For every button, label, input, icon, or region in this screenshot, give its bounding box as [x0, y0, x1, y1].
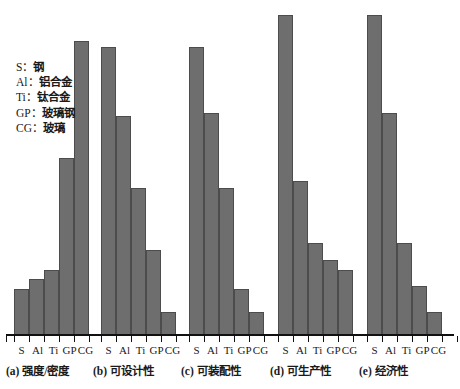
- panel-caption-e: (e) 经济性: [359, 362, 408, 378]
- tick-mark: [59, 336, 60, 342]
- bar-b-al: [116, 116, 131, 335]
- tick-labels-a: SAlTiGPCG: [14, 344, 94, 356]
- tick-mark: [29, 336, 30, 342]
- bar-c-s: [189, 47, 204, 335]
- bar-d-al: [293, 181, 308, 335]
- tick-mark: [131, 336, 132, 342]
- tick-label-c-ti: Ti: [221, 344, 237, 356]
- tick-label-c-al: Al: [205, 344, 221, 356]
- tick-labels-e: SAlTiGPCG: [367, 344, 447, 356]
- tick-mark: [6, 336, 7, 342]
- legend-entry-cg: CG：玻璃: [16, 121, 75, 136]
- tick-labels-b: SAlTiGPCG: [101, 344, 181, 356]
- tick-mark: [338, 336, 339, 342]
- legend-entry-separator: ：: [26, 91, 37, 103]
- legend-entry-key: Al: [16, 76, 28, 88]
- tick-label-c-gp: GP: [237, 344, 253, 356]
- tick-label-b-cg: CG: [165, 344, 181, 356]
- tick-mark: [323, 336, 324, 342]
- tick-label-e-gp: GP: [415, 344, 431, 356]
- bar-a-gp: [59, 158, 74, 335]
- tick-label-e-ti: Ti: [399, 344, 415, 356]
- bar-group-b: [101, 0, 176, 335]
- bar-c-gp: [234, 289, 249, 335]
- legend-entry-label: 玻璃: [43, 122, 65, 134]
- bar-d-ti: [308, 243, 323, 335]
- legend-entry-separator: ：: [32, 122, 43, 134]
- bar-e-cg: [427, 312, 442, 335]
- bar-b-gp: [146, 250, 161, 335]
- tick-label-b-gp: GP: [149, 344, 165, 356]
- tick-label-e-cg: CG: [431, 344, 447, 356]
- tick-mark: [427, 336, 428, 342]
- tick-label-d-al: Al: [294, 344, 310, 356]
- bar-d-s: [278, 15, 293, 335]
- tick-mark: [74, 336, 75, 342]
- legend-entry-gp: GP：玻璃钢: [16, 106, 75, 121]
- bar-a-s: [14, 289, 29, 335]
- tick-mark: [293, 336, 294, 342]
- bar-group-c: [189, 0, 264, 335]
- bar-a-ti: [44, 270, 59, 335]
- tick-mark: [382, 336, 383, 342]
- tick-mark: [397, 336, 398, 342]
- tick-mark: [278, 336, 279, 342]
- tick-mark: [101, 336, 102, 342]
- bar-e-gp: [412, 286, 427, 335]
- legend-entry-separator: ：: [28, 76, 39, 88]
- legend-entry-separator: ：: [22, 61, 33, 73]
- panel-caption-d: (d) 可生产性: [270, 362, 331, 378]
- tick-label-d-s: S: [278, 344, 294, 356]
- tick-label-a-al: Al: [30, 344, 46, 356]
- tick-label-e-s: S: [367, 344, 383, 356]
- tick-label-a-gp: GP: [62, 344, 78, 356]
- tick-mark: [234, 336, 235, 342]
- bar-group-e: [367, 0, 442, 335]
- tick-label-a-cg: CG: [78, 344, 94, 356]
- legend-entry-separator: ：: [31, 107, 42, 119]
- tick-label-b-s: S: [101, 344, 117, 356]
- bar-b-s: [101, 47, 116, 335]
- bar-e-s: [367, 15, 382, 335]
- plot-area: [0, 0, 460, 335]
- panel-caption-a: (a) 强度/密度: [6, 362, 69, 378]
- tick-mark: [161, 336, 162, 342]
- tick-label-c-cg: CG: [253, 344, 269, 356]
- bar-b-ti: [131, 188, 146, 335]
- bar-group-d: [278, 0, 353, 335]
- legend-entry-key: Ti: [16, 91, 26, 103]
- legend: S：钢Al：铝合金Ti：钛合金GP：玻璃钢CG：玻璃: [16, 60, 75, 136]
- tick-mark: [89, 336, 90, 342]
- panel-caption-c: (c) 可装配性: [181, 362, 241, 378]
- panel-caption-b: (b) 可设计性: [93, 362, 154, 378]
- tick-mark: [146, 336, 147, 342]
- tick-mark: [442, 336, 443, 342]
- bar-c-cg: [249, 312, 264, 335]
- legend-entry-key: CG: [16, 122, 32, 134]
- tick-mark: [204, 336, 205, 342]
- bar-c-al: [204, 113, 219, 335]
- tick-label-d-cg: CG: [342, 344, 358, 356]
- bar-group-a: [14, 0, 89, 335]
- bar-e-al: [382, 113, 397, 335]
- tick-label-b-al: Al: [117, 344, 133, 356]
- legend-entry-label: 钢: [33, 61, 44, 73]
- legend-entry-s: S：钢: [16, 60, 75, 75]
- bar-c-ti: [219, 188, 234, 335]
- legend-entry-label: 铝合金: [39, 76, 72, 88]
- tick-mark: [367, 336, 368, 342]
- bar-d-cg: [338, 270, 353, 335]
- tick-mark: [14, 336, 15, 342]
- tick-mark: [189, 336, 190, 342]
- tick-mark: [412, 336, 413, 342]
- legend-entry-key: GP: [16, 107, 31, 119]
- tick-label-c-s: S: [189, 344, 205, 356]
- tick-mark: [176, 336, 177, 342]
- bar-a-cg: [74, 41, 89, 335]
- tick-mark: [457, 336, 458, 342]
- tick-labels-c: SAlTiGPCG: [189, 344, 269, 356]
- bar-chart-figure: S：钢Al：铝合金Ti：钛合金GP：玻璃钢CG：玻璃 SAlTiGPCG(a) …: [0, 0, 460, 389]
- legend-entry-label: 玻璃钢: [42, 107, 75, 119]
- tick-mark: [353, 336, 354, 342]
- legend-entry-ti: Ti：钛合金: [16, 90, 75, 105]
